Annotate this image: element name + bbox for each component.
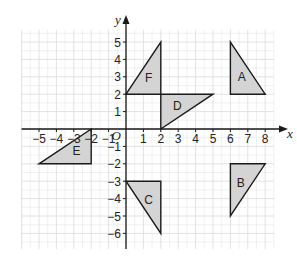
y-tick-label: −5 xyxy=(107,210,121,224)
origin-label: O xyxy=(112,128,122,143)
y-tick-label: −4 xyxy=(107,192,121,206)
coordinate-grid-diagram: ABCDEF −5−4−3−2−11234567854321−1−2−3−4−5… xyxy=(0,0,297,268)
triangle-label-f: F xyxy=(145,71,152,85)
y-axis-arrow-icon xyxy=(123,15,130,24)
y-tick-label: 4 xyxy=(114,53,121,67)
x-tick-label: −2 xyxy=(84,132,98,146)
x-tick-label: −4 xyxy=(50,132,64,146)
y-tick-label: 3 xyxy=(114,70,121,84)
x-tick-label: 7 xyxy=(244,132,251,146)
y-tick-label: −3 xyxy=(107,175,121,189)
x-tick-label: 5 xyxy=(210,132,217,146)
triangle-label-c: C xyxy=(144,193,153,207)
triangle-label-d: D xyxy=(173,99,182,113)
y-tick-label: 1 xyxy=(114,105,121,119)
x-tick-label: 3 xyxy=(175,132,182,146)
y-tick-label: −2 xyxy=(107,157,121,171)
x-tick-label: −3 xyxy=(67,132,81,146)
y-axis-label: y xyxy=(113,12,121,27)
x-tick-label: 2 xyxy=(157,132,164,146)
triangle-label-b: B xyxy=(237,176,245,190)
x-tick-label: 4 xyxy=(192,132,199,146)
y-tick-label: 5 xyxy=(114,36,121,50)
x-tick-label: −5 xyxy=(32,132,46,146)
x-axis-label: x xyxy=(286,126,293,141)
y-tick-label: −6 xyxy=(107,227,121,241)
x-tick-label: 6 xyxy=(227,132,234,146)
triangle-label-a: A xyxy=(238,70,246,84)
x-tick-label: 1 xyxy=(140,132,147,146)
y-tick-label: 2 xyxy=(114,88,121,102)
x-tick-label: 8 xyxy=(262,132,269,146)
